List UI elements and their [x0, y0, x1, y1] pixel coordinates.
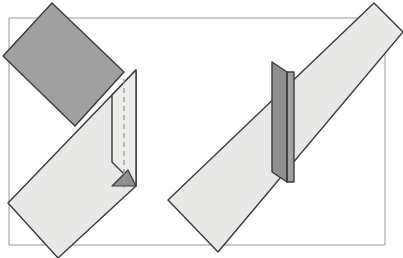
- right-dark-fold-panel-right: [287, 72, 294, 182]
- figure-canvas: [0, 0, 403, 258]
- right-dark-fold-panel-left: [272, 62, 287, 182]
- folded-surface-diagram: [0, 0, 403, 258]
